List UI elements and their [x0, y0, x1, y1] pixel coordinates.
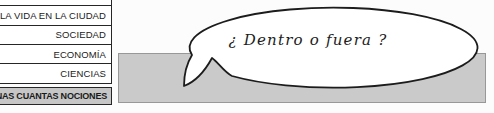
menu-item-label: SOCIEDAD	[56, 29, 106, 40]
menu-item-ciencias[interactable]: CIENCIAS	[0, 63, 112, 84]
menu-item-sociedad[interactable]: SOCIEDAD	[0, 25, 112, 46]
menu-item-label: LA GENTE	[59, 0, 106, 2]
chapter-index-menu: LA GENTE LA VIDA EN LA CIUDAD SOCIEDAD E…	[0, 0, 112, 105]
menu-item-label: LA VIDA EN LA CIUDAD	[0, 10, 106, 21]
menu-item-economia[interactable]: ECONOMÍA	[0, 44, 112, 65]
menu-item-label: ECONOMÍA	[53, 49, 106, 60]
menu-item-la-vida-en-la-ciudad[interactable]: LA VIDA EN LA CIUDAD	[0, 5, 112, 26]
speech-bubble: ¿ Dentro o fuera ?	[160, 0, 494, 113]
speech-bubble-text: ¿ Dentro o fuera ?	[229, 31, 388, 49]
menu-item-unas-cuantas-nociones[interactable]: UNAS CUANTAS NOCIONES	[0, 87, 112, 106]
menu-item-label: CIENCIAS	[60, 68, 106, 79]
menu-item-label: UNAS CUANTAS NOCIONES	[0, 91, 107, 101]
